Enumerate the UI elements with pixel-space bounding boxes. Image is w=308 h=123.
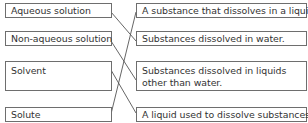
term-box-solvent[interactable]: Solvent — [5, 61, 112, 91]
term-label: Solvent — [11, 65, 46, 76]
definition-box-dissolved-in-other-liquids[interactable]: Substances dissolved in liquids other th… — [136, 61, 307, 91]
definition-box-dissolved-in-water[interactable]: Substances dissolved in water. — [136, 31, 307, 46]
definition-label: A liquid used to dissolve substances. — [142, 109, 308, 120]
definition-label: Substances dissolved in liquids other th… — [142, 65, 286, 88]
definition-box-substance-dissolves[interactable]: A substance that dissolves in a liquid. — [136, 3, 307, 18]
connector-solvent-to-liquid-used — [111, 70, 136, 113]
term-box-solute[interactable]: Solute — [5, 107, 112, 122]
definition-box-liquid-used[interactable]: A liquid used to dissolve substances. — [136, 107, 307, 122]
term-box-aqueous-solution[interactable]: Aqueous solution — [5, 3, 112, 18]
term-label: Non-aqueous solution — [11, 33, 112, 44]
term-label: Solute — [11, 109, 40, 120]
term-box-non-aqueous-solution[interactable]: Non-aqueous solution — [5, 31, 112, 46]
connector-solute-to-substance-dissolves — [111, 12, 136, 114]
definition-label: A substance that dissolves in a liquid. — [142, 5, 308, 16]
definition-label: Substances dissolved in water. — [142, 33, 285, 44]
term-label: Aqueous solution — [11, 5, 91, 16]
connector-nonaqueous-to-other-liquids — [111, 41, 136, 80]
